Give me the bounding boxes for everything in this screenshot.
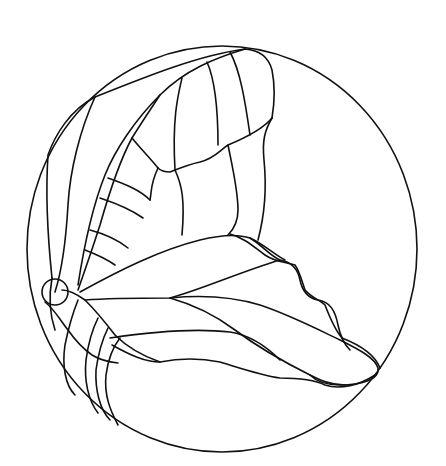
lower-wing-outline — [80, 234, 380, 387]
butterfly-body — [45, 278, 160, 425]
circular-border — [27, 46, 417, 452]
upper-wing-outline — [47, 49, 274, 292]
butterfly-line-art — [0, 0, 446, 466]
